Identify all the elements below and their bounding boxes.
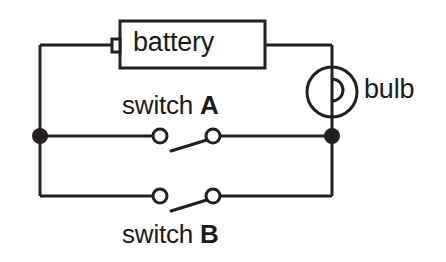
junction-node-right <box>324 128 340 144</box>
battery-terminal-nub <box>112 39 120 52</box>
switch-b-terminal-right[interactable] <box>206 189 220 203</box>
switch-b-label: switchB <box>122 221 219 247</box>
switch-a-terminal-left[interactable] <box>153 129 167 143</box>
switch-b-lever[interactable] <box>171 199 210 211</box>
junction-node-left <box>32 128 48 144</box>
switch-b-label-word: switch <box>122 219 193 249</box>
circuit-schematic <box>0 0 446 262</box>
switch-a-label: switchA <box>122 92 219 118</box>
switch-a-label-id: A <box>200 90 219 120</box>
circuit-diagram-canvas: battery bulb switchA switchB <box>0 0 446 262</box>
switch-a-label-word: switch <box>122 90 193 120</box>
switch-b-label-id: B <box>200 219 219 249</box>
switch-a-terminal-right[interactable] <box>206 129 220 143</box>
switch-a-lever[interactable] <box>171 139 210 151</box>
battery-label: battery <box>133 29 214 56</box>
switch-b-terminal-left[interactable] <box>153 189 167 203</box>
bulb-label: bulb <box>364 76 414 103</box>
